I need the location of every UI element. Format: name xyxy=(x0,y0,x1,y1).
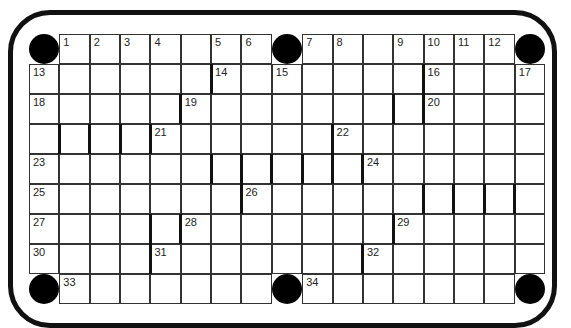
grid-cell[interactable]: 19 xyxy=(181,94,211,124)
grid-cell[interactable]: 29 xyxy=(393,214,423,244)
grid-cell[interactable] xyxy=(90,154,120,184)
grid-cell[interactable] xyxy=(484,94,514,124)
grid-cell[interactable] xyxy=(424,184,454,214)
grid-cell[interactable] xyxy=(515,154,545,184)
grid-cell[interactable] xyxy=(181,64,211,94)
grid-cell[interactable] xyxy=(424,244,454,274)
grid-cell[interactable] xyxy=(302,244,332,274)
grid-cell[interactable] xyxy=(484,214,514,244)
grid-cell[interactable]: 23 xyxy=(29,154,59,184)
grid-cell[interactable] xyxy=(393,64,423,94)
grid-cell[interactable] xyxy=(363,274,393,304)
grid-cell[interactable] xyxy=(241,124,271,154)
grid-cell[interactable] xyxy=(454,154,484,184)
grid-cell[interactable] xyxy=(333,184,363,214)
grid-cell[interactable] xyxy=(424,154,454,184)
grid-cell[interactable] xyxy=(302,124,332,154)
grid-cell[interactable] xyxy=(241,154,271,184)
grid-cell[interactable] xyxy=(181,34,211,64)
grid-cell[interactable] xyxy=(59,64,89,94)
grid-cell[interactable] xyxy=(150,214,180,244)
grid-cell[interactable]: 22 xyxy=(333,124,363,154)
grid-cell[interactable] xyxy=(150,274,180,304)
grid-cell[interactable] xyxy=(515,184,545,214)
grid-cell[interactable] xyxy=(393,244,423,274)
grid-cell[interactable] xyxy=(333,154,363,184)
grid-cell[interactable] xyxy=(272,244,302,274)
grid-cell[interactable]: 33 xyxy=(59,274,89,304)
grid-cell[interactable] xyxy=(120,184,150,214)
grid-cell[interactable] xyxy=(181,274,211,304)
grid-cell[interactable] xyxy=(424,214,454,244)
grid-cell[interactable] xyxy=(59,214,89,244)
grid-cell[interactable]: 11 xyxy=(454,34,484,64)
grid-cell[interactable] xyxy=(150,184,180,214)
grid-cell[interactable]: 14 xyxy=(211,64,241,94)
grid-cell[interactable] xyxy=(120,274,150,304)
grid-cell[interactable] xyxy=(333,244,363,274)
grid-cell[interactable] xyxy=(363,124,393,154)
grid-cell[interactable] xyxy=(120,154,150,184)
grid-cell[interactable] xyxy=(393,184,423,214)
grid-cell[interactable] xyxy=(393,154,423,184)
grid-cell[interactable] xyxy=(302,214,332,244)
grid-cell[interactable] xyxy=(302,154,332,184)
grid-cell[interactable] xyxy=(454,64,484,94)
grid-cell[interactable] xyxy=(181,244,211,274)
grid-cell[interactable] xyxy=(241,94,271,124)
grid-cell[interactable] xyxy=(484,244,514,274)
grid-cell[interactable] xyxy=(272,214,302,244)
grid-cell[interactable]: 13 xyxy=(29,64,59,94)
grid-cell[interactable] xyxy=(90,244,120,274)
grid-cell[interactable] xyxy=(333,64,363,94)
grid-cell[interactable] xyxy=(211,184,241,214)
grid-cell[interactable]: 9 xyxy=(393,34,423,64)
grid-cell[interactable] xyxy=(484,274,514,304)
grid-cell[interactable] xyxy=(484,64,514,94)
grid-cell[interactable] xyxy=(272,154,302,184)
grid-cell[interactable]: 31 xyxy=(150,244,180,274)
grid-cell[interactable] xyxy=(454,94,484,124)
grid-cell[interactable] xyxy=(90,184,120,214)
grid-cell[interactable]: 5 xyxy=(211,34,241,64)
grid-cell[interactable] xyxy=(211,124,241,154)
grid-cell[interactable]: 32 xyxy=(363,244,393,274)
grid-cell[interactable] xyxy=(363,94,393,124)
grid-cell[interactable]: 30 xyxy=(29,244,59,274)
grid-cell[interactable]: 21 xyxy=(150,124,180,154)
grid-cell[interactable]: 15 xyxy=(272,64,302,94)
grid-cell[interactable] xyxy=(181,154,211,184)
grid-cell[interactable] xyxy=(272,94,302,124)
grid-cell[interactable] xyxy=(150,154,180,184)
grid-cell[interactable] xyxy=(515,94,545,124)
grid-cell[interactable] xyxy=(515,214,545,244)
grid-cell[interactable] xyxy=(454,214,484,244)
grid-cell[interactable]: 2 xyxy=(90,34,120,64)
grid-cell[interactable] xyxy=(120,124,150,154)
grid-cell[interactable]: 18 xyxy=(29,94,59,124)
grid-cell[interactable] xyxy=(90,94,120,124)
grid-cell[interactable] xyxy=(272,124,302,154)
grid-cell[interactable]: 8 xyxy=(333,34,363,64)
grid-cell[interactable] xyxy=(150,94,180,124)
grid-cell[interactable] xyxy=(484,154,514,184)
grid-cell[interactable] xyxy=(393,124,423,154)
grid-cell[interactable] xyxy=(393,274,423,304)
grid-cell[interactable] xyxy=(150,64,180,94)
grid-cell[interactable]: 16 xyxy=(424,64,454,94)
grid-cell[interactable]: 17 xyxy=(515,64,545,94)
grid-cell[interactable] xyxy=(363,64,393,94)
grid-cell[interactable] xyxy=(363,214,393,244)
grid-cell[interactable] xyxy=(120,64,150,94)
grid-cell[interactable] xyxy=(333,214,363,244)
grid-cell[interactable] xyxy=(333,274,363,304)
grid-cell[interactable] xyxy=(241,244,271,274)
grid-cell[interactable] xyxy=(484,124,514,154)
grid-cell[interactable] xyxy=(59,244,89,274)
grid-cell[interactable] xyxy=(181,184,211,214)
grid-cell[interactable] xyxy=(211,214,241,244)
grid-cell[interactable] xyxy=(90,64,120,94)
grid-cell[interactable]: 3 xyxy=(120,34,150,64)
grid-cell[interactable]: 7 xyxy=(302,34,332,64)
grid-cell[interactable]: 27 xyxy=(29,214,59,244)
